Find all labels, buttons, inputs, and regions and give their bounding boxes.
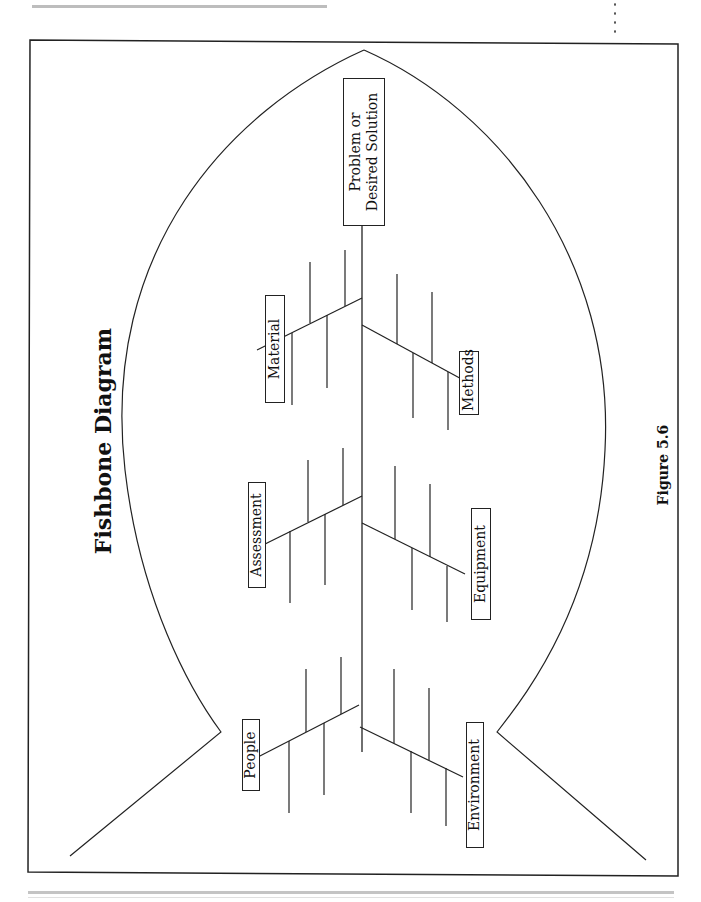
category-label-equipment: Equipment: [471, 508, 491, 620]
page-title: Fishbone Diagram: [88, 326, 118, 556]
category-label-environment: Environment: [466, 722, 484, 848]
bone-environment: [360, 669, 463, 826]
category-label-methods: Methods: [459, 351, 479, 415]
bone-people: [256, 657, 359, 813]
bone-assessment: [257, 448, 362, 603]
footer-rule: [28, 891, 674, 894]
problem-head-line1: Problem or: [347, 83, 364, 221]
footer-rule-thin: [28, 897, 674, 898]
bone-equipment: [362, 466, 465, 622]
bone-methods: [362, 274, 467, 430]
figure-caption: Figure 5.6: [653, 415, 673, 515]
problem-head-box: Problem or Desired Solution: [343, 78, 385, 226]
category-label-assessment: Assessment: [248, 482, 266, 588]
category-label-people: People: [242, 719, 260, 791]
problem-head-line2: Desired Solution: [364, 83, 381, 221]
category-label-material: Material: [265, 295, 285, 403]
